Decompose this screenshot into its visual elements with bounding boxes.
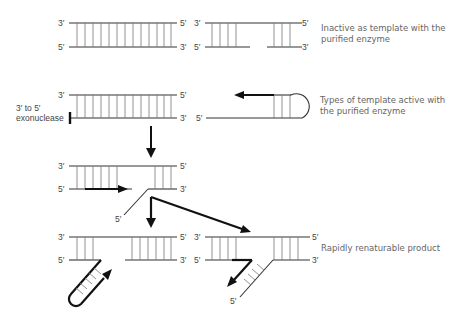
- label-5prime: 5′: [58, 255, 65, 265]
- product-fork-right: 3′ 5′ 5′ 3′ 5′: [194, 232, 319, 306]
- label-3prime: 3′: [302, 42, 309, 52]
- label-5prime: 5′: [194, 42, 201, 52]
- label-3prime: 3′: [180, 113, 187, 123]
- dna-replication-diagram: 3′ 5′ 5′ 3′ 3′ 5′ 5′ 3′ Inactive as temp…: [0, 0, 456, 326]
- label-3prime: 3′: [58, 90, 65, 100]
- label-5prime: 5′: [180, 18, 187, 28]
- label-5prime: 5′: [180, 232, 187, 242]
- full-duplex-inactive: 3′ 5′ 5′ 3′: [58, 18, 187, 52]
- label-5prime: 5′: [180, 161, 187, 171]
- exonuclease-label-line2: exonuclease: [16, 113, 64, 123]
- branch-arrows: [146, 197, 251, 233]
- duplex-with-exonuclease: 3′ 5′ 3′ 3′ to 5′ exonuclease: [16, 90, 187, 124]
- caption-product: Rapidly renaturable product: [321, 243, 441, 253]
- label-3prime: 3′: [58, 18, 65, 28]
- label-3prime: 3′: [194, 232, 201, 242]
- label-5prime: 5′: [196, 113, 203, 123]
- caption-active-line1: Types of template active with: [319, 95, 445, 105]
- hairpin-template-active: 5′: [196, 91, 309, 123]
- arrow-down-icon: [146, 126, 156, 158]
- label-3prime: 3′: [58, 161, 65, 171]
- label-5prime: 5′: [302, 18, 309, 28]
- caption-active-line2: the purified enzyme: [320, 106, 406, 116]
- label-3prime: 3′: [194, 18, 201, 28]
- exonuclease-label-line1: 3′ to 5′: [16, 103, 41, 113]
- label-5prime: 5′: [194, 255, 201, 265]
- arrow-down-icon: [146, 218, 156, 228]
- caption-inactive-line2: purified enzyme: [321, 34, 390, 44]
- nicked-duplex-inactive: 3′ 5′ 5′ 3′: [194, 18, 309, 52]
- label-3prime: 3′: [180, 42, 187, 52]
- base-pair-rungs: [77, 23, 171, 47]
- arrow-left-icon: [234, 91, 244, 99]
- arrow-right-down-icon: [240, 225, 251, 233]
- label-3prime: 3′: [180, 255, 187, 265]
- label-3prime: 3′: [58, 232, 65, 242]
- caption-inactive-line1: Inactive as template with the: [321, 23, 446, 33]
- strand-displacement-intermediate: 3′ 5′ 5′ 3′ 5′: [58, 161, 187, 224]
- label-5prime: 5′: [58, 42, 65, 52]
- label-3prime: 3′: [312, 255, 319, 265]
- label-5prime: 5′: [58, 184, 65, 194]
- label-5prime: 5′: [312, 232, 319, 242]
- label-3prime: 3′: [180, 184, 187, 194]
- label-5prime: 5′: [230, 296, 237, 306]
- product-hairpin-left: 3′ 5′ 5′ 3′: [58, 232, 187, 306]
- arrow-right-icon: [118, 185, 128, 193]
- label-5prime: 5′: [115, 214, 122, 224]
- label-5prime: 5′: [180, 90, 187, 100]
